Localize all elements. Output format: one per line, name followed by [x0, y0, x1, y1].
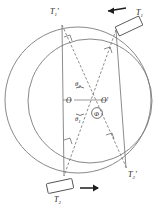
- chord-solid-left: [62, 25, 64, 176]
- figure-canvas: T1' T2' T1 T2 O O' θ2 θ1 Φ: [0, 0, 168, 205]
- label-center-o: O: [66, 96, 72, 105]
- chord-dashed-tr-bl: [64, 30, 116, 176]
- label-theta2: θ2: [75, 80, 81, 89]
- geometry-figure: T1' T2' T1 T2 O O' θ2 θ1 Φ: [0, 0, 168, 205]
- perp-mark-bottom-left: [64, 138, 72, 144]
- label-t2: T2: [54, 195, 61, 205]
- arrow-left-t1: [108, 8, 126, 15]
- arrow-right-t2: [80, 185, 99, 192]
- label-t2-prime: T2': [128, 170, 137, 180]
- label-t1-prime: T1': [50, 7, 59, 17]
- label-t1: T1: [136, 8, 143, 18]
- label-theta1: θ1: [75, 115, 81, 124]
- inner-circle: [28, 39, 152, 163]
- label-center-o-prime: O': [101, 96, 108, 105]
- bar-t2: [46, 178, 74, 193]
- label-phi: Φ: [94, 110, 99, 117]
- bar-t1: [115, 16, 143, 36]
